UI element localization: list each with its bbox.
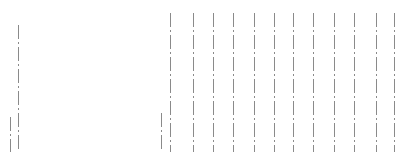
dash-dot-vertical-line [313,13,314,152]
dash-dot-vertical-line [376,13,377,152]
dash-dot-vertical-line [394,13,395,152]
dash-dot-vertical-line [170,13,171,152]
dash-dot-vertical-line [18,25,19,152]
dash-dot-vertical-line [274,13,275,152]
dash-dot-vertical-line [233,13,234,152]
dash-dot-vertical-line [193,13,194,152]
dash-dot-vertical-line [213,13,214,152]
dash-dot-vertical-line [161,113,162,152]
dash-dot-vertical-line [254,13,255,152]
dash-dot-vertical-line [334,13,335,152]
dash-dot-vertical-line [10,117,11,152]
dash-dot-vertical-line [293,13,294,152]
dash-dot-vertical-line [354,13,355,152]
